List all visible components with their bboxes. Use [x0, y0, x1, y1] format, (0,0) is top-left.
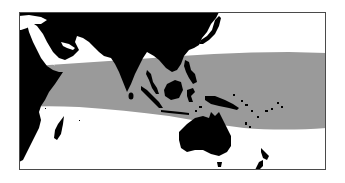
- map-frame: [19, 12, 326, 170]
- taiwan: [182, 49, 185, 55]
- map-canvas: [19, 12, 326, 170]
- sri-lanka: [129, 93, 134, 100]
